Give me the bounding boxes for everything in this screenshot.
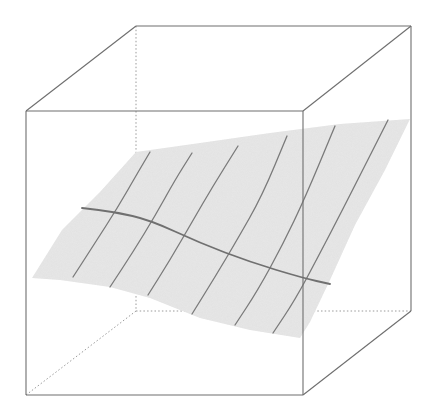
edge-bottom-right-depth <box>303 311 411 395</box>
surface-sheet <box>32 119 410 338</box>
surface <box>32 119 410 338</box>
edge-top-right-depth <box>303 26 411 111</box>
hidden-edge-bottom-left-depth <box>26 311 136 395</box>
edge-top-left-depth <box>26 26 136 111</box>
surface-plot-3d <box>0 0 432 417</box>
